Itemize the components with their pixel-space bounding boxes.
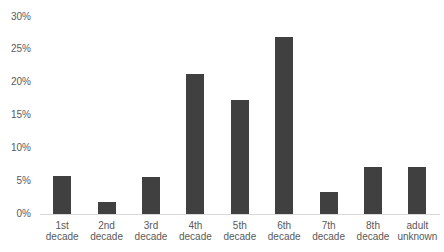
y-tick-label: 5% <box>0 176 31 186</box>
x-tick-label: 2nddecade <box>84 220 130 242</box>
bar <box>320 192 338 214</box>
x-tick-label: 8thdecade <box>350 220 396 242</box>
x-tick-label: 5thdecade <box>217 220 263 242</box>
bar <box>98 202 116 214</box>
x-tick-label: 1stdecade <box>39 220 85 242</box>
x-tick-label: 4thdecade <box>172 220 218 242</box>
x-tick-label: adultunknown <box>394 220 440 242</box>
y-tick-label: 15% <box>0 110 31 120</box>
bar <box>186 74 204 214</box>
y-tick-label: 0% <box>0 209 31 219</box>
x-tick-label: 3rddecade <box>128 220 174 242</box>
x-tick-label: 7thdecade <box>306 220 352 242</box>
bar <box>142 177 160 214</box>
bar <box>231 100 249 214</box>
y-tick-label: 20% <box>0 77 31 87</box>
x-tick-label: 6thdecade <box>261 220 307 242</box>
bar <box>408 167 426 214</box>
bar <box>275 37 293 214</box>
y-tick-label: 30% <box>0 12 31 22</box>
y-tick-label: 25% <box>0 44 31 54</box>
bar <box>364 167 382 214</box>
x-axis-line <box>40 214 440 215</box>
bar <box>53 176 71 214</box>
y-tick-label: 10% <box>0 143 31 153</box>
